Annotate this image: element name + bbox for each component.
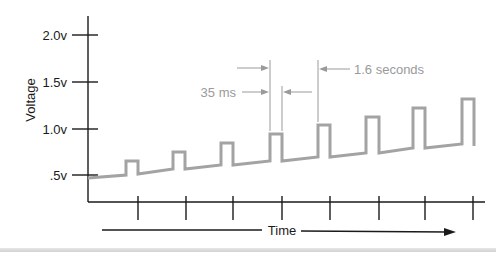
y-tick-label: 1.5v: [42, 75, 67, 90]
arrowhead-icon: [319, 66, 327, 72]
arrowhead-icon: [283, 89, 291, 95]
pulse-interval-dimension: 1.6 seconds: [318, 60, 425, 122]
x-axis-title: Time: [268, 223, 296, 238]
y-tick-label: .5v: [50, 168, 68, 183]
bottom-divider: [0, 248, 496, 252]
y-tick-label: 1.0v: [42, 122, 67, 137]
pulse-width-label: 35 ms: [201, 85, 237, 100]
voltage-waveform: [88, 99, 474, 178]
arrowhead-icon: [261, 89, 269, 95]
x-axis-ticks: [138, 196, 473, 220]
time-arrowhead-icon: [444, 228, 456, 236]
pulse-width-dimension: 35 ms: [201, 60, 312, 131]
y-tick-label: 2.0v: [42, 28, 67, 43]
y-axis-title: Voltage: [23, 78, 38, 121]
arrowhead-icon: [261, 65, 269, 71]
y-axis-ticks: 2.0v1.5v1.0v.5v: [42, 28, 98, 183]
pulse-diagram: 2.0v1.5v1.0v.5v Voltage Time 35 ms 1.6 s…: [0, 0, 501, 253]
pulse-interval-label: 1.6 seconds: [354, 62, 425, 77]
time-arrow-right-line: [301, 231, 448, 232]
